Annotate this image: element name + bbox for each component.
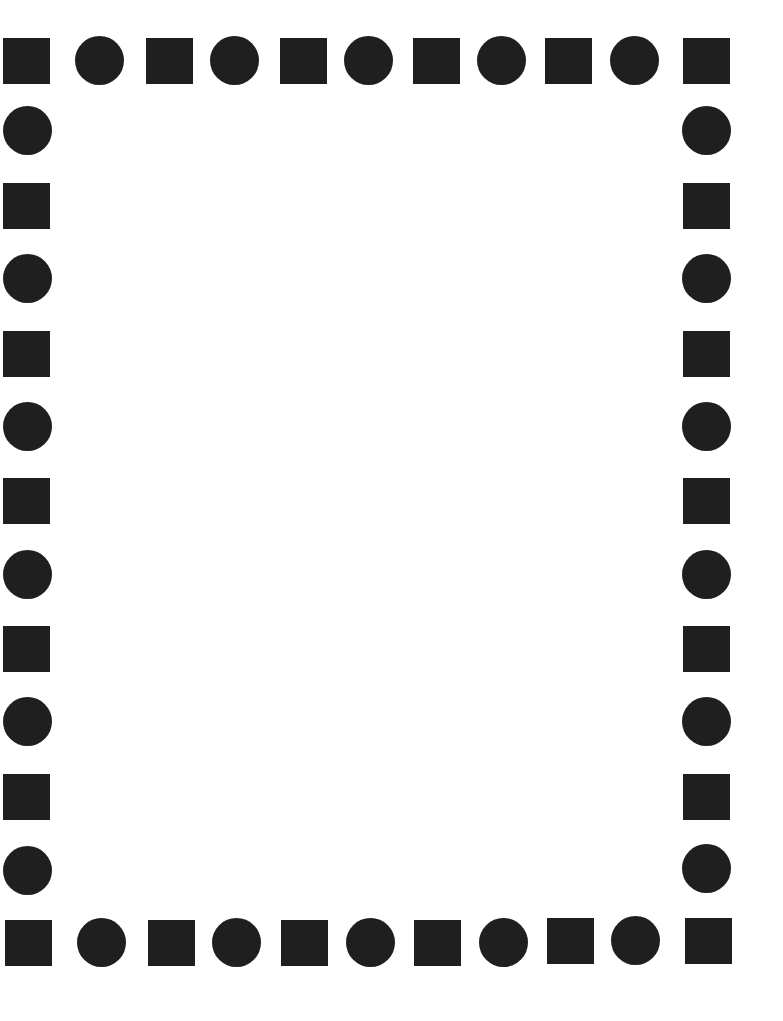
border-right-circle-icon xyxy=(682,402,731,451)
border-bottom-square-icon xyxy=(414,920,461,966)
border-right-square-icon xyxy=(683,183,730,229)
border-left-square-icon xyxy=(3,183,50,229)
border-right-circle-icon xyxy=(682,550,731,599)
border-right-circle-icon xyxy=(682,106,731,155)
border-top-square-icon xyxy=(545,38,592,84)
border-bottom-circle-icon xyxy=(212,918,261,967)
border-left-square-icon xyxy=(3,626,50,672)
border-top-circle-icon xyxy=(75,36,124,85)
border-right-square-icon xyxy=(683,774,730,820)
border-right-square-icon xyxy=(683,331,730,377)
border-bottom-circle-icon xyxy=(77,918,126,967)
border-left-circle-icon xyxy=(3,550,52,599)
border-left-square-icon xyxy=(3,331,50,377)
border-right-circle-icon xyxy=(682,254,731,303)
border-bottom-square-icon xyxy=(5,920,52,966)
border-bottom-circle-icon xyxy=(479,918,528,967)
border-top-circle-icon xyxy=(344,36,393,85)
border-bottom-square-icon xyxy=(281,920,328,966)
border-top-square-icon xyxy=(3,38,50,84)
border-top-square-icon xyxy=(280,38,327,84)
border-bottom-square-icon xyxy=(148,920,195,966)
border-top-circle-icon xyxy=(210,36,259,85)
border-left-square-icon xyxy=(3,774,50,820)
border-right-square-icon xyxy=(683,478,730,524)
border-top-square-icon xyxy=(413,38,460,84)
border-left-circle-icon xyxy=(3,254,52,303)
border-bottom-square-icon xyxy=(685,918,732,964)
border-top-square-icon xyxy=(146,38,193,84)
border-bottom-square-icon xyxy=(547,918,594,964)
border-right-square-icon xyxy=(683,626,730,672)
border-left-circle-icon xyxy=(3,402,52,451)
border-right-circle-icon xyxy=(682,844,731,893)
border-left-circle-icon xyxy=(3,846,52,895)
border-top-circle-icon xyxy=(477,36,526,85)
border-right-circle-icon xyxy=(682,697,731,746)
border-top-circle-icon xyxy=(610,36,659,85)
border-left-square-icon xyxy=(3,478,50,524)
border-bottom-circle-icon xyxy=(346,918,395,967)
border-bottom-circle-icon xyxy=(611,916,660,965)
border-top-square-icon xyxy=(683,38,730,84)
border-left-circle-icon xyxy=(3,106,52,155)
border-left-circle-icon xyxy=(3,697,52,746)
